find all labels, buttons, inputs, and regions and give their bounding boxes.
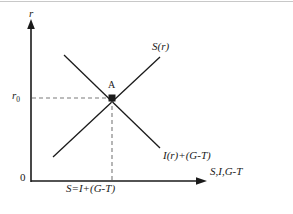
equilibrium-quantity-label: S=I+(G-T) bbox=[66, 183, 115, 194]
equilibrium-point-label: A bbox=[108, 80, 115, 90]
x-axis bbox=[31, 177, 207, 185]
diagram-canvas bbox=[0, 0, 293, 214]
y-axis-tick-label-r0: r0 bbox=[12, 90, 20, 104]
savings-curve-line bbox=[53, 57, 160, 157]
y-axis bbox=[27, 19, 35, 182]
savings-curve-label: S(r) bbox=[152, 41, 169, 52]
origin-label: 0 bbox=[20, 172, 26, 183]
r0-subscript: 0 bbox=[16, 95, 20, 104]
x-axis-label: S,I,G-T bbox=[210, 166, 242, 177]
economics-diagram-figure: r S,I,G-T 0 r0 S(r) I(r)+(G-T) S=I+(G-T)… bbox=[0, 0, 293, 214]
equilibrium-point-marker bbox=[109, 95, 116, 102]
investment-curve-label: I(r)+(G-T) bbox=[163, 150, 211, 161]
y-axis-label: r bbox=[29, 8, 33, 19]
